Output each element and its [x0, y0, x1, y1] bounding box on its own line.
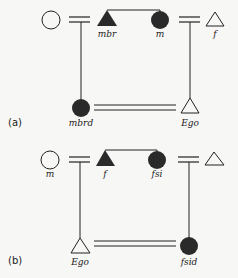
filled-circle-node	[180, 237, 198, 255]
sibling-line	[107, 10, 160, 12]
node-label: fsi	[151, 169, 163, 179]
open-triangle-node	[206, 12, 224, 26]
node-label: m	[156, 29, 165, 39]
filled-triangle-node	[96, 150, 115, 166]
filled-triangle-node	[97, 10, 117, 26]
node-label: fsid	[180, 257, 198, 267]
panel-label: (a)	[8, 117, 22, 128]
filled-circle-node	[151, 11, 169, 29]
node-label: Ego	[70, 257, 89, 267]
node-label: Ego	[180, 118, 199, 128]
filled-circle-node	[148, 151, 166, 169]
open-triangle-node	[205, 152, 224, 165]
sibling-line	[105, 150, 157, 152]
open-circle-node	[42, 11, 60, 29]
open-triangle-node	[71, 238, 90, 253]
node-label: m	[46, 169, 55, 179]
node-label: mbrd	[69, 118, 94, 128]
panel-label: (b)	[8, 255, 22, 266]
panel-a: mbr m f mbrd Ego (a)	[8, 10, 224, 128]
filled-circle-node	[72, 99, 90, 117]
open-circle-node	[41, 151, 59, 169]
node-label: f	[102, 169, 108, 179]
open-triangle-node	[181, 98, 199, 113]
node-label: mbr	[98, 29, 117, 39]
node-label: f	[212, 29, 218, 39]
kinship-diagram: mbr m f mbrd Ego (a) m f fsi	[0, 0, 238, 278]
panel-b: m f fsi Ego fsid (b)	[8, 150, 224, 267]
